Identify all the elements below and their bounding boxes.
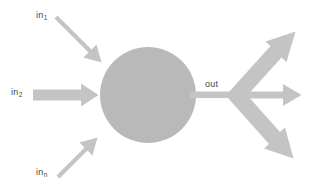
input-label-n-subscript: n (44, 171, 48, 178)
input-label-1-subscript: 1 (44, 14, 48, 21)
processing-node (100, 47, 196, 143)
output-label: out (205, 80, 218, 89)
input-arrow-2 (33, 84, 99, 107)
input-label-n: inn (36, 168, 47, 177)
input-arrow-1 (55, 16, 102, 63)
input-label-n-base: in (36, 167, 43, 177)
input-label-2-base: in (11, 87, 18, 97)
input-label-1-base: in (36, 10, 43, 20)
input-label-1: in1 (36, 11, 47, 20)
input-label-2-subscript: 2 (19, 91, 23, 98)
input-label-2: in2 (11, 88, 22, 97)
diagram-graphics (0, 0, 313, 191)
diagram-canvas: in1 in2 inn out (0, 0, 313, 191)
input-arrow-n (54, 138, 98, 179)
